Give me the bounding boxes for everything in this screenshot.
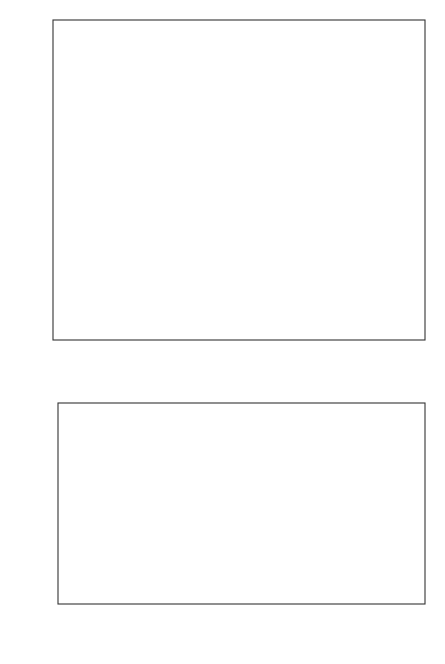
figure-background bbox=[0, 0, 445, 664]
figure-svg bbox=[0, 0, 445, 664]
figure-container bbox=[0, 0, 445, 664]
